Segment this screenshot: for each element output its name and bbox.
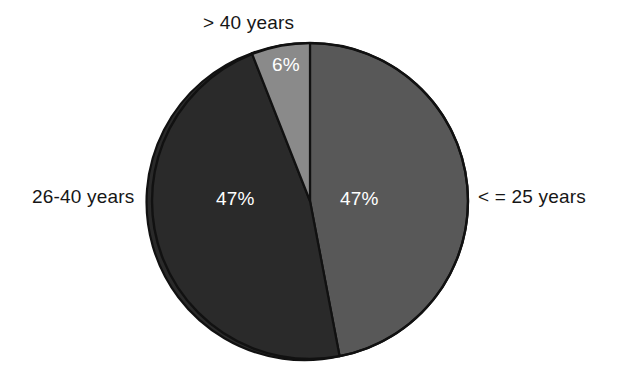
pie-label-gt40: > 40 years	[203, 12, 294, 34]
pie-value-gt40: 6%	[272, 54, 300, 76]
pie-value-26-40: 47%	[216, 188, 255, 210]
pie-value-lte25: 47%	[340, 188, 379, 210]
pie-label-26-40: 26-40 years	[32, 186, 135, 208]
pie-slice-lte25	[310, 43, 468, 356]
pie-chart-figure: > 40 years 26-40 years < = 25 years 47% …	[0, 0, 618, 389]
pie-label-lte25: < = 25 years	[478, 186, 586, 208]
